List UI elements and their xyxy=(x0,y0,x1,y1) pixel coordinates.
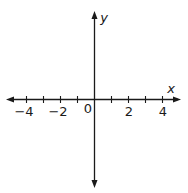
tick-label-4: 4 xyxy=(159,104,167,119)
tick-label-neg2: −2 xyxy=(48,104,67,119)
y-axis-top-arrow-icon xyxy=(92,11,98,19)
x-axis-right-arrow-icon xyxy=(173,97,181,103)
tick-label-neg4: −4 xyxy=(14,104,33,119)
coordinate-plane: −4 −2 0 2 4 x y xyxy=(0,0,188,193)
y-axis-label: y xyxy=(99,10,108,25)
x-axis-label: x xyxy=(166,81,175,96)
tick-label-2: 2 xyxy=(125,104,133,119)
x-axis-left-arrow-icon xyxy=(6,97,14,103)
y-axis-bottom-arrow-icon xyxy=(92,180,98,188)
tick-label-0: 0 xyxy=(84,101,92,116)
